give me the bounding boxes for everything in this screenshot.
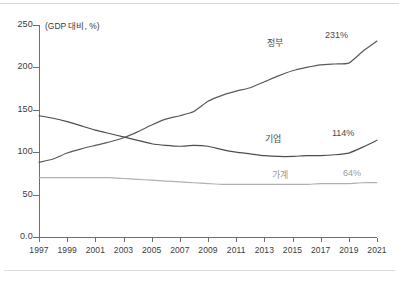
series-end-value-가계: 64% [343,168,361,178]
series-label-가계: 가계 [272,168,288,181]
series-end-value-기업: 114% [332,128,354,138]
chart-figure: (GDP 대비, %) 0.050100150200250 1997199920… [0,0,399,283]
chart-plot-area [0,0,399,283]
series-label-정부: 정부 [267,36,283,49]
series-line-기업 [39,116,377,157]
series-line-정부 [39,41,377,162]
series-end-value-정부: 231% [325,30,348,40]
series-label-기업: 기업 [265,132,281,145]
series-line-가계 [39,178,377,185]
